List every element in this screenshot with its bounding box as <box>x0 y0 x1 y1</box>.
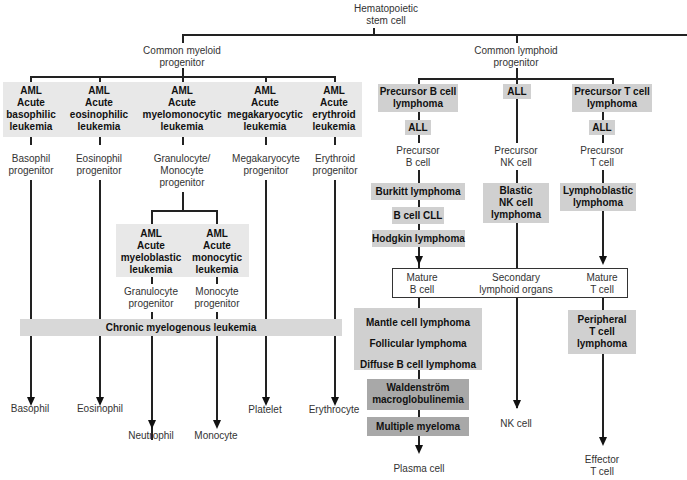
connector <box>334 180 336 400</box>
platelet: Platelet <box>235 404 295 416</box>
t-all-box: ALL <box>589 120 615 135</box>
nk-cell: NK cell <box>486 418 546 430</box>
connector <box>151 210 153 224</box>
connector <box>182 192 184 211</box>
aml-myelomonocytic-box: AMLAcutemyelomonocyticleukemia <box>138 85 226 133</box>
aml-monocytic-box: AMLAcutemonocyticleukemia <box>186 228 248 276</box>
arrow-down-icon <box>415 256 423 265</box>
arrow-down-icon <box>148 420 156 429</box>
arrow-down-icon <box>513 400 521 409</box>
aml-eosinophilic-box: AMLAcuteeosinophilicleukemia <box>66 85 132 133</box>
secondary-lymphoid-organs-label: Secondarylymphoid organs <box>474 272 558 296</box>
connector <box>99 180 101 400</box>
arrow-down-icon <box>213 420 221 429</box>
connector <box>99 137 101 145</box>
b-lymphoma-group-box: Mantle cell lymphomaFollicular lymphomaD… <box>354 308 482 370</box>
burkitt-lymphoma-box: Burkitt lymphoma <box>371 183 465 200</box>
connector <box>216 277 218 284</box>
connector <box>418 135 420 143</box>
precursor-b-cell: PrecursorB cell <box>388 145 448 169</box>
arrow-down-icon <box>415 445 423 454</box>
hodgkin-lymphoma-box: Hodgkin lymphoma <box>372 230 465 247</box>
connector <box>265 180 267 400</box>
effector-t-cell: EffectorT cell <box>572 454 632 478</box>
connector <box>182 34 522 36</box>
connector <box>151 277 153 284</box>
nk-all-box: ALL <box>503 84 531 99</box>
connector <box>265 137 267 145</box>
multiple-myeloma-box: Multiple myeloma <box>367 417 469 436</box>
hematopoietic-stem-cell: Hematopoietic stem cell <box>330 3 442 27</box>
connector <box>30 76 335 78</box>
erythrocyte: Erythrocyte <box>302 404 366 416</box>
connector <box>30 180 32 400</box>
mature-b-cell: MatureB cell <box>392 272 452 296</box>
blastic-nk-cell-lymphoma-box: BlasticNK celllymphoma <box>483 183 549 223</box>
connector <box>516 99 518 143</box>
connector <box>418 112 420 120</box>
connector <box>602 135 604 143</box>
precursor-t-cell: PrecursorT cell <box>572 145 632 169</box>
connector <box>151 210 217 212</box>
connector <box>516 223 518 408</box>
connector <box>516 170 518 184</box>
basophil-progenitor: Basophilprogenitor <box>0 153 62 177</box>
arrow-down-icon <box>599 256 607 265</box>
plasma-cell: Plasma cell <box>384 463 454 475</box>
precursor-t-cell-lymphoma-box: Precursor T celllymphoma <box>572 84 652 112</box>
monocyte-progenitor: Monocyteprogenitor <box>186 286 248 310</box>
aml-megakaryocytic-box: AMLAcutemegakaryocyticleukemia <box>224 85 306 133</box>
cml-band: Chronic myelogenous leukemia <box>20 319 342 336</box>
granulocyte-progenitor: Granulocyteprogenitor <box>118 286 184 310</box>
connector <box>516 34 518 43</box>
precursor-nk-cell: PrecursorNK cell <box>486 145 546 169</box>
common-lymphoid-progenitor: Common lymphoidprogenitor <box>460 45 572 69</box>
aml-erythroid-box: AMLAcuteerythroidleukemia <box>308 85 360 133</box>
eosinophil-progenitor: Eosinophilprogenitor <box>68 153 130 177</box>
connector <box>30 137 32 145</box>
connector <box>182 137 184 145</box>
monocyte: Monocyte <box>186 430 246 442</box>
b-all-box: ALL <box>405 120 431 135</box>
peripheral-t-cell-lymphoma-box: PeripheralT celllymphoma <box>568 310 636 354</box>
eosinophil: Eosinophil <box>70 403 130 415</box>
granulocyte-monocyte-progenitor: Granulocyte/Monocyteprogenitor <box>148 153 216 189</box>
aml-myeloblastic-box: AMLAcutemyeloblasticleukemia <box>116 228 186 276</box>
megakaryocyte-progenitor: Megakaryocyteprogenitor <box>228 153 304 177</box>
waldenstrom-box: Waldenströmmacroglobulinemia <box>367 379 469 410</box>
connector <box>216 210 218 224</box>
connector <box>602 112 604 120</box>
common-myeloid-progenitor: Common myeloid progenitor <box>126 45 238 69</box>
neutrophil: Neutrophil <box>121 430 181 442</box>
basophil: Basophil <box>0 403 60 415</box>
erythroid-progenitor: Erythroidprogenitor <box>305 153 365 177</box>
connector <box>602 211 604 259</box>
connector <box>182 34 184 43</box>
b-cell-cll-box: B cell CLL <box>392 207 444 224</box>
connector <box>602 170 604 184</box>
precursor-b-cell-lymphoma-box: Precursor B celllymphoma <box>378 84 458 112</box>
aml-basophilic-box: AMLAcutebasophilicleukemia <box>3 85 59 133</box>
connector <box>334 137 336 145</box>
arrow-down-icon <box>599 437 607 446</box>
mature-t-cell: MatureT cell <box>574 272 630 296</box>
lymphoblastic-lymphoma-box: Lymphoblasticlymphoma <box>560 183 636 211</box>
